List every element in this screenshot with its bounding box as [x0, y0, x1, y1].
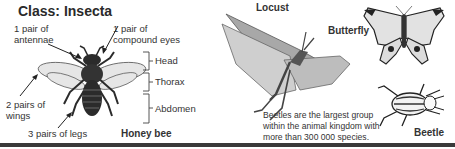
beetle-caption: Beetle: [414, 127, 444, 138]
bottom-divider: [0, 143, 455, 147]
compound-eyes-label: 1 pair of compound eyes: [113, 23, 180, 45]
insect-illustrations: [0, 0, 455, 149]
antennae-label: 1 pair of antennae: [14, 23, 54, 45]
thorax-label: Thorax: [155, 76, 185, 87]
butterfly-caption: Butterfly: [328, 25, 369, 36]
wings-label: 2 pairs of wings: [6, 99, 45, 121]
locust-caption: Locust: [256, 2, 289, 13]
honey-bee-caption: Honey bee: [121, 128, 172, 139]
beetle-note: Beetles are the largest group within the…: [263, 110, 380, 143]
legs-label: 3 pairs of legs: [28, 128, 87, 139]
butterfly-illustration: [364, 6, 444, 64]
page-title: Class: Insecta: [18, 3, 112, 19]
head-label: Head: [155, 55, 178, 66]
beetle-illustration: [378, 84, 444, 126]
abdomen-label: Abdomen: [155, 103, 196, 114]
